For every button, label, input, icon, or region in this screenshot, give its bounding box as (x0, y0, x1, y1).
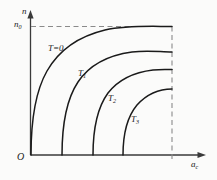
y-axis-tick-label-n0: n0 (14, 20, 22, 30)
plot-area (0, 0, 217, 180)
x-axis-arrowhead (198, 152, 207, 158)
t1-subscript: 1 (83, 73, 86, 79)
curve-label-t2: T2 (108, 94, 116, 104)
curve-t1 (62, 51, 172, 155)
y-axis-label: n (22, 7, 27, 16)
origin-label: O (17, 152, 24, 162)
curve-label-t1: T1 (78, 69, 86, 79)
t3-subscript: 3 (136, 119, 139, 125)
y-axis-arrowhead (27, 10, 33, 19)
x-axis-label: ac (191, 160, 198, 170)
ac-subscript: c (196, 164, 199, 170)
n0-subscript: 0 (19, 24, 22, 30)
curve-label-t3: T3 (131, 115, 139, 125)
curve-label-t0: T=0 (48, 44, 64, 53)
physics-figure: n n0 O ac T=0 T1 T2 T3 (0, 0, 217, 180)
t2-subscript: 2 (113, 98, 116, 104)
